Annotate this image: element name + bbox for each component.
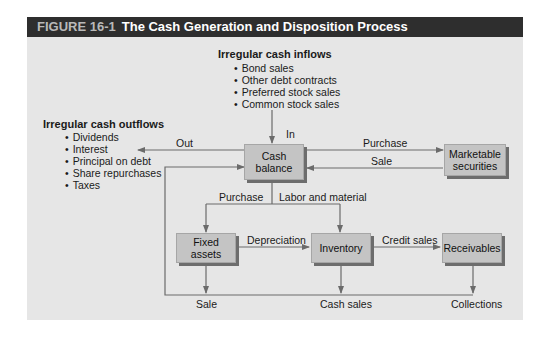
node-inventory: Inventory (311, 233, 371, 263)
outflows-list: Dividends Interest Principal on debt Sha… (65, 131, 161, 191)
label-purchase-securities: Purchase (363, 137, 407, 149)
label-labor-material: Labor and material (279, 191, 367, 203)
inflow-item: Common stock sales (234, 98, 340, 110)
node-receivables-label: Receivables (443, 242, 500, 254)
label-out: Out (176, 137, 193, 149)
node-cash-balance: Cash balance (244, 144, 304, 180)
label-cash-sales: Cash sales (320, 298, 372, 310)
node-fixed-assets: Fixed assets (176, 233, 236, 263)
label-sale-securities: Sale (371, 155, 392, 167)
label-purchase-fixed: Purchase (219, 191, 263, 203)
inflow-item: Preferred stock sales (234, 86, 340, 98)
inflows-heading: Irregular cash inflows (218, 48, 332, 60)
outflow-item: Principal on debt (65, 155, 161, 167)
node-marketable-securities: Marketable securities (444, 144, 506, 176)
label-credit-sales: Credit sales (382, 234, 437, 246)
outflow-item: Share repurchases (65, 167, 161, 179)
label-collections: Collections (451, 298, 502, 310)
node-fixed-assets-label: Fixed assets (177, 236, 235, 260)
inflows-list: Bond sales Other debt contracts Preferre… (234, 62, 340, 110)
node-receivables: Receivables (442, 233, 502, 263)
node-inventory-label: Inventory (319, 242, 362, 254)
node-cash-balance-label: Cash balance (252, 150, 296, 174)
outflow-item: Dividends (65, 131, 161, 143)
node-marketable-securities-label: Marketable securities (447, 148, 503, 172)
label-sale: Sale (196, 298, 217, 310)
outflow-item: Interest (65, 143, 161, 155)
label-in: In (286, 128, 295, 140)
outflow-item: Taxes (65, 179, 161, 191)
outflows-heading: Irregular cash outflows (43, 118, 164, 130)
inflow-item: Other debt contracts (234, 74, 340, 86)
inflow-item: Bond sales (234, 62, 340, 74)
return-loop-arrow (165, 167, 473, 295)
label-depreciation: Depreciation (247, 234, 306, 246)
